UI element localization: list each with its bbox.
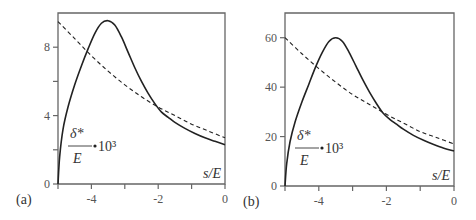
y-tick-label: 0 [271,179,277,193]
y-tick-label: 4 [44,109,50,123]
solid-curve [58,21,225,184]
axes-frame [58,13,225,184]
ylabel-denominator: E [299,153,309,168]
y-tick-label: 0 [44,177,50,191]
y-tick-label: 20 [265,130,277,144]
x-tick-label: -2 [153,192,163,206]
panel-label: (b) [243,194,260,210]
chart-canvas: -4-20048δ*10³Es/E(a)-4-200204060δ*10³Es/… [0,0,476,220]
panel-a: -4-20048δ*10³Es/E(a) [16,13,228,208]
x-tick-label: -4 [86,192,96,206]
solid-curve [285,38,454,186]
ylabel-denominator: E [72,151,82,166]
x-tick-label: 0 [451,194,457,208]
panel-label: (a) [16,192,32,208]
multiply-dot [93,144,96,147]
x-axis-label: s/E [203,166,221,181]
ylabel-numerator: δ* [70,126,84,141]
multiply-dot [320,146,323,149]
x-tick-label: -2 [381,194,391,208]
x-tick-label: -4 [314,194,324,208]
axes-frame [285,13,454,186]
y-tick-label: 8 [44,40,50,54]
x-tick-label: 0 [222,192,228,206]
ylabel-numerator: δ* [297,128,311,143]
panel-b: -4-200204060δ*10³Es/E(b) [243,13,457,210]
y-tick-label: 60 [265,31,277,45]
y-tick-label: 40 [265,80,277,94]
ylabel-factor: 10³ [98,139,116,154]
ylabel-factor: 10³ [325,141,343,156]
x-axis-label: s/E [432,168,450,183]
